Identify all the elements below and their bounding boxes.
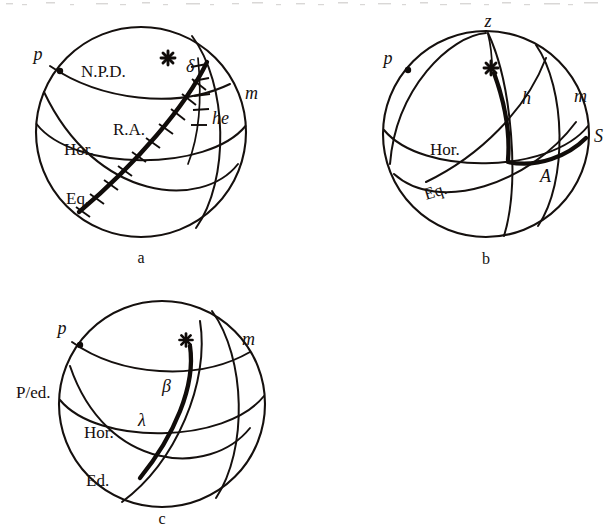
label-ecliptic-c: Ed. [86, 471, 109, 490]
star-marker-c [180, 334, 193, 347]
panel-c-ecliptic-sphere: p P/ed. β λ m Hor. Ed. c [14, 286, 284, 529]
label-ecliptic-longitude-c: λ [137, 410, 146, 430]
label-horizon-c: Hor. [84, 423, 114, 442]
caption-c: c [158, 510, 165, 527]
caption-b: b [482, 250, 490, 267]
figure-root: p N.P.D. δ he m R.A. Hor. Eq. a [0, 0, 608, 529]
label-meridian-c: m [242, 329, 255, 349]
label-ecliptic-latitude-c: β [161, 376, 171, 396]
caption-a: a [137, 249, 144, 266]
label-pole-c: p [56, 318, 67, 338]
label-ecliptic-pole-c: P/ed. [16, 383, 50, 402]
pole-point-c [77, 342, 83, 348]
clipped-text-remnant-strip [0, 0, 608, 10]
panel-a-caption-layer: a [16, 14, 266, 274]
panel-b-caption-layer: b [360, 14, 608, 274]
